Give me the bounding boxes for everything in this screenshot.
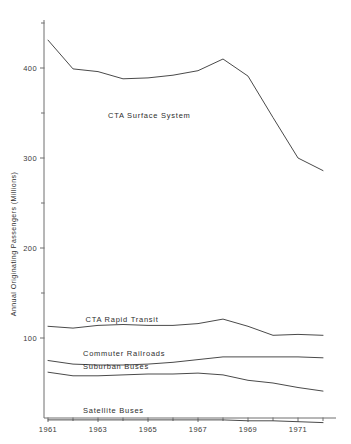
x-axis-tick-label: 1969 (239, 425, 257, 434)
series-label-cta-rapid-transit: CTA Rapid Transit (86, 315, 159, 324)
series-line-cta-surface-system (48, 40, 323, 171)
x-axis-tick-label: 1971 (289, 425, 307, 434)
y-axis-tick-label: 200 (23, 244, 37, 253)
axes-group (44, 20, 336, 418)
series-labels-group: CTA Surface SystemCTA Rapid TransitCommu… (83, 111, 191, 415)
series-label-satellite-buses: Satellite Buses (83, 406, 144, 415)
x-axis-tick-label: 1967 (189, 425, 207, 434)
series-line-satellite-buses (48, 420, 323, 423)
x-axis-tick-label: 1965 (139, 425, 157, 434)
series-label-cta-surface-system: CTA Surface System (108, 111, 191, 120)
y-axis-tick-label: 400 (23, 64, 37, 73)
chart-container: 100200300400196119631965196719691971 CTA… (0, 0, 351, 444)
y-axis-title: Annual Originating Passengers (Millions) (10, 172, 18, 316)
series-line-suburban-buses (48, 372, 323, 391)
y-axis-tick-label: 100 (23, 334, 37, 343)
y-axis-tick-label: 300 (23, 154, 37, 163)
series-label-suburban-buses: Suburban Buses (83, 362, 149, 371)
line-chart-svg: 100200300400196119631965196719691971 CTA… (0, 0, 351, 444)
series-label-commuter-railroads: Commuter Railroads (83, 349, 165, 358)
y-axis-label-group: Annual Originating Passengers (Millions) (10, 172, 18, 316)
x-axis-tick-label: 1963 (89, 425, 107, 434)
x-axis-tick-label: 1961 (39, 425, 57, 434)
